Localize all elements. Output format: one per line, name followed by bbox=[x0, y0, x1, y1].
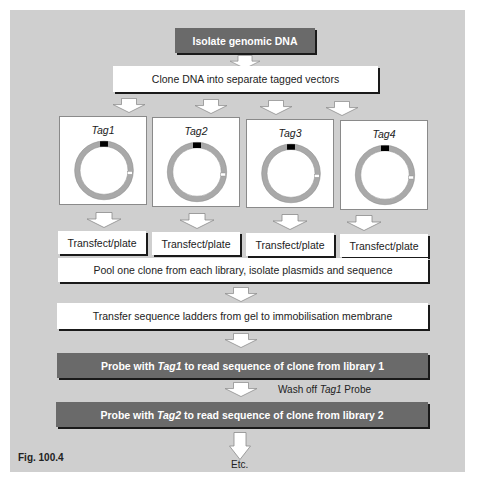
tag2-vector-panel: Tag2 bbox=[152, 117, 240, 207]
probe-tag2-label: Probe with Tag2 to read sequence of clon… bbox=[100, 409, 383, 421]
tag2-label: Tag2 bbox=[153, 125, 239, 137]
transfect-label: Transfect/plate bbox=[255, 239, 324, 251]
pool-clones-label: Pool one clone from each library, isolat… bbox=[93, 264, 392, 276]
probe-tag1-step: Probe with Tag1 to read sequence of clon… bbox=[57, 353, 428, 378]
tag1-vector-panel: Tag1 bbox=[59, 116, 147, 205]
tag4-vector-panel: Tag4 bbox=[340, 120, 428, 210]
pool-clones-step: Pool one clone from each library, isolat… bbox=[58, 258, 428, 282]
tag1-label: Tag1 bbox=[60, 124, 146, 136]
clone-dna-label: Clone DNA into separate tagged vectors bbox=[152, 73, 339, 85]
transfect-label: Transfect/plate bbox=[349, 240, 418, 252]
transfect-step-3: Transfect/plate bbox=[246, 233, 334, 256]
transfect-step-1: Transfect/plate bbox=[58, 231, 146, 254]
down-arrow-icon bbox=[223, 382, 259, 397]
etc-label: Etc. bbox=[231, 459, 248, 470]
down-arrow-icon bbox=[193, 99, 229, 114]
down-arrow-icon bbox=[111, 98, 147, 113]
probe-tag1-label: Probe with Tag1 to read sequence of clon… bbox=[101, 360, 384, 372]
down-arrow-icon bbox=[346, 215, 382, 231]
down-arrow-icon bbox=[223, 333, 259, 348]
tag3-label: Tag3 bbox=[247, 127, 333, 139]
down-arrow-icon bbox=[324, 101, 360, 116]
probe-tag2-step: Probe with Tag2 to read sequence of clon… bbox=[56, 402, 428, 427]
clone-dna-step: Clone DNA into separate tagged vectors bbox=[113, 66, 378, 92]
tag4-label: Tag4 bbox=[341, 128, 427, 140]
wash-off-caption: Wash off Tag1 Probe bbox=[278, 384, 371, 395]
transfect-label: Transfect/plate bbox=[161, 238, 230, 250]
transfer-ladders-label: Transfer sequence ladders from gel to im… bbox=[93, 310, 393, 322]
down-arrow-icon bbox=[229, 432, 251, 460]
figure-label: Fig. 100.4 bbox=[18, 452, 64, 463]
down-arrow-icon bbox=[86, 212, 122, 228]
isolate-dna-label: Isolate genomic DNA bbox=[192, 35, 297, 47]
isolate-dna-step: Isolate genomic DNA bbox=[175, 28, 315, 53]
down-arrow-icon bbox=[179, 213, 215, 229]
transfer-ladders-step: Transfer sequence ladders from gel to im… bbox=[57, 303, 428, 329]
transfect-step-2: Transfect/plate bbox=[152, 232, 240, 255]
transfect-label: Transfect/plate bbox=[67, 237, 136, 249]
down-arrow-icon bbox=[258, 100, 294, 115]
transfect-step-4: Transfect/plate bbox=[340, 234, 428, 257]
tag3-vector-panel: Tag3 bbox=[246, 119, 334, 208]
down-arrow-icon bbox=[223, 287, 259, 302]
down-arrow-icon bbox=[272, 214, 308, 230]
